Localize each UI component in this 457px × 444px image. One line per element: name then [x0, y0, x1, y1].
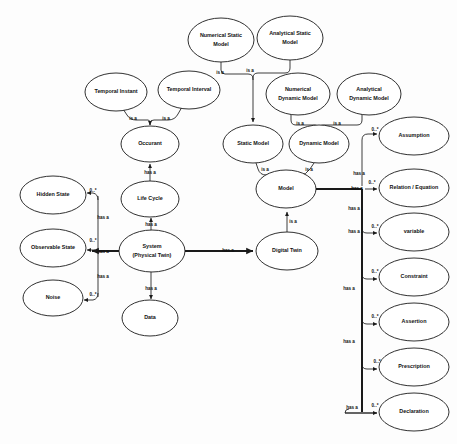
node-model[interactable]: Model [256, 170, 316, 208]
node-label: (Physical Twin) [133, 252, 172, 258]
multiplicity-label: 0..* [372, 127, 379, 132]
node-label: Analytical [356, 86, 382, 92]
node-variable[interactable]: variable [379, 213, 449, 251]
edge-label-is-a: is a [162, 116, 170, 121]
node-label: Digital Twin [272, 247, 302, 253]
node-label: Static Model [237, 140, 269, 146]
diagram-canvas: is a is a is a is a is a is a is a is a … [0, 0, 457, 444]
edge-label-is-a: is a [246, 68, 254, 73]
node-analytical-dynamic-model[interactable]: Analytical Dynamic Model [337, 73, 401, 115]
edge-label-has-a: has a [348, 229, 360, 234]
multiplicity-label: 0..* [372, 403, 379, 408]
node-analytical-static-model[interactable]: Analytical Static Model [257, 16, 323, 60]
node-label: Declaration [399, 408, 428, 414]
node-label: Life Cycle [137, 195, 162, 201]
node-constraint[interactable]: Constraint [379, 258, 449, 296]
edge-model-to-prescription [362, 364, 377, 369]
node-label: Model [278, 185, 294, 191]
node-label: Numerical [285, 86, 312, 92]
edge-label-has-a: has a [353, 171, 365, 176]
node-label: Data [144, 314, 157, 320]
edge-model-to-constraint [362, 274, 377, 279]
node-label: Numerical Static [200, 32, 242, 38]
edge-label-has-a: has a [145, 222, 157, 227]
edge-system-to-hidden-state [87, 193, 98, 200]
node-assertion[interactable]: Assertion [379, 303, 449, 341]
node-digital-twin[interactable]: Digital Twin [256, 232, 318, 270]
concept-map-diagram: is a is a is a is a is a is a is a is a … [0, 0, 457, 444]
node-label: Dynamic Model [278, 95, 318, 101]
edge-label-is-a: is a [261, 167, 269, 172]
node-system-physical-twin[interactable]: System (Physical Twin) [119, 230, 185, 272]
edge-label-has-a: has a [97, 274, 109, 279]
node-label: Temporal Instant [94, 88, 137, 94]
node-dynamic-model[interactable]: Dynamic Model [289, 125, 349, 163]
node-numerical-dynamic-model[interactable]: Numerical Dynamic Model [266, 73, 330, 115]
node-label: variable [404, 228, 424, 234]
multiplicity-label: 0..* [90, 238, 97, 243]
edge-label-is-a: is a [296, 121, 304, 126]
edge-label-has-a: has a [346, 405, 358, 410]
node-label: Observable State [31, 244, 75, 250]
edge-label-has-a: has a [144, 170, 156, 175]
multiplicity-label: 0..* [90, 188, 97, 193]
edge-label-has-a: has a [145, 286, 157, 291]
multiplicity-label: 0..* [90, 292, 97, 297]
edge-label-has-a: has a [97, 215, 109, 220]
node-relation-equation[interactable]: Relation / Equation [379, 169, 449, 207]
node-declaration[interactable]: Declaration [379, 393, 449, 431]
node-hidden-state[interactable]: Hidden State [20, 176, 86, 214]
node-label: System [142, 243, 161, 249]
node-label: Temporal Interval [167, 86, 212, 92]
node-prescription[interactable]: Prescription [379, 348, 449, 386]
edge-label-has-a: has a [343, 286, 355, 291]
edge-label-is-a: is a [216, 70, 224, 75]
edge-label-has-a: has a [97, 249, 109, 254]
node-layer: Numerical Static Model Analytical Static… [20, 16, 449, 431]
node-label: Noise [46, 294, 61, 300]
node-temporal-interval[interactable]: Temporal Interval [158, 71, 220, 109]
node-label: Hidden State [37, 191, 70, 197]
edge-label-has-a: has a [348, 206, 360, 211]
node-noise[interactable]: Noise [23, 280, 83, 316]
node-label: Analytical Static [269, 30, 311, 36]
node-label: Model [282, 39, 298, 45]
edge-label-has-a: has a [351, 186, 363, 191]
edge-model-to-assertion [362, 319, 377, 324]
edge-label-is-a: is a [305, 167, 313, 172]
node-occurrent[interactable]: Occurant [121, 126, 179, 162]
multiplicity-label: 0..* [372, 314, 379, 319]
node-label: Prescription [398, 363, 429, 369]
edge-model-to-assumption [362, 134, 377, 186]
edge-label-is-a: is a [129, 116, 137, 121]
node-label: Occurant [138, 140, 162, 146]
multiplicity-label: 0..* [369, 180, 376, 185]
node-temporal-instant[interactable]: Temporal Instant [85, 73, 147, 111]
node-data[interactable]: Data [122, 300, 178, 336]
multiplicity-label: 0..* [372, 224, 379, 229]
node-numerical-static-model[interactable]: Numerical Static Model [188, 18, 254, 62]
node-label: Dynamic Model [349, 95, 389, 101]
edge-label-is-a: is a [289, 219, 297, 224]
node-label: Assumption [398, 132, 429, 138]
edge-label-is-a: is a [333, 121, 341, 126]
node-label: Dynamic Model [299, 140, 339, 146]
node-observable-state[interactable]: Observable State [20, 229, 86, 267]
multiplicity-label: 0..* [372, 269, 379, 274]
edge-model-to-variable [362, 229, 377, 233]
node-label: Model [213, 41, 229, 47]
node-assumption[interactable]: Assumption [379, 117, 449, 155]
node-label: Constraint [401, 273, 428, 279]
node-static-model[interactable]: Static Model [223, 125, 283, 163]
node-label: Relation / Equation [390, 184, 439, 190]
edge-label-has-a: has a [222, 248, 234, 253]
node-life-cycle[interactable]: Life Cycle [121, 181, 179, 217]
edge-label-has-a: has a [343, 339, 355, 344]
node-label: Assertion [402, 318, 427, 324]
